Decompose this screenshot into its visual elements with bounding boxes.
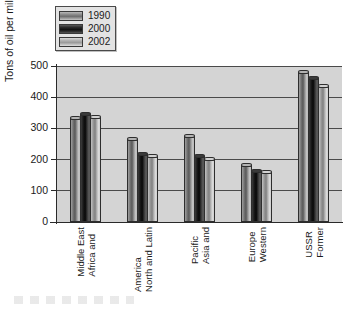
bar-cap [204,157,215,161]
y-tick-label-200: 200 [8,154,48,164]
x-axis-category-line: USSR [303,227,314,258]
y-tick-mark-500 [51,66,56,67]
x-axis-category-line: Pacific [189,227,200,264]
x-axis-category-line: North and Latin [143,227,154,292]
bar-group [285,66,342,222]
x-axis-category-line: Asia and [200,227,211,264]
bar-group [114,66,171,222]
bar-2002-5 [318,86,329,222]
bar-group [57,66,114,222]
plot-area [57,66,342,222]
bar-cap [184,134,195,138]
legend-item-2002: 2002 [59,35,110,48]
y-tick-mark-200 [51,159,56,160]
x-axis-category-line: Western [257,227,268,262]
x-axis-category: FormerUSSR [285,223,342,307]
x-axis-categories: Africa andMiddle EastNorth and LatinAmer… [57,223,342,307]
bar-cap [251,169,262,173]
bar-cap [194,154,205,158]
x-axis-category-label: WesternEurope [246,227,268,262]
chart-legend: 1990 2000 2002 [55,6,116,51]
bar-group [228,66,285,222]
legend-label-2002: 2002 [88,36,110,47]
bar-cap [127,137,138,141]
bar-2002-2 [147,156,158,222]
x-axis-category-line: Middle East [75,227,86,277]
legend-item-2000: 2000 [59,22,110,35]
y-axis-title: Tons of oil per million dollars [2,0,16,94]
y-tick-label-0: 0 [8,216,48,226]
bar-2000-5 [308,78,319,222]
x-axis-category: Africa andMiddle East [57,223,114,307]
bar-2002-1 [90,117,101,222]
x-axis-category: WesternEurope [228,223,285,307]
x-axis-category-line: Africa and [86,227,97,277]
y-tick-label-400: 400 [8,91,48,101]
bar-2000-1 [80,114,91,222]
x-axis-category-label: Africa andMiddle East [75,227,97,277]
bar-2000-3 [194,156,205,222]
y-tick-label-300: 300 [8,122,48,132]
y-tick-mark-0 [51,222,56,223]
bar-cap [261,170,272,174]
bar-2002-4 [261,172,272,222]
y-tick-label-500: 500 [8,60,48,70]
bar-cap [318,84,329,88]
x-axis-category: North and LatinAmerica [114,223,171,307]
bar-cap [90,115,101,119]
legend-swatch-2002 [59,37,83,47]
bar-cap [80,112,91,116]
legend-item-1990: 1990 [59,9,110,22]
bar-2002-3 [204,159,215,222]
x-axis-category-line: America [132,227,143,292]
x-axis-category-line: Former [314,227,325,258]
legend-label-1990: 1990 [88,10,110,21]
bar-cap [308,76,319,80]
y-tick-mark-400 [51,97,56,98]
y-tick-label-100: 100 [8,185,48,195]
x-axis-category-label: Asia andPacific [189,227,211,264]
x-axis-category-line: Europe [246,227,257,262]
bar-cap [298,70,309,74]
scan-artifact [14,296,134,304]
legend-swatch-2000 [59,24,83,34]
bar-chart: 1990 2000 2002 Tons of oil per million d… [0,0,350,309]
x-axis-category: Asia andPacific [171,223,228,307]
y-tick-mark-100 [51,190,56,191]
bar-group [171,66,228,222]
legend-label-2000: 2000 [88,23,110,34]
bar-groups [57,66,342,222]
x-axis-category-label: FormerUSSR [303,227,325,258]
legend-swatch-1990 [59,11,83,21]
bar-cap [241,163,252,167]
bar-2000-2 [137,154,148,222]
bar-cap [137,152,148,156]
bar-cap [147,154,158,158]
bar-2000-4 [251,171,262,222]
y-tick-mark-300 [51,128,56,129]
x-axis-category-label: North and LatinAmerica [132,227,154,292]
